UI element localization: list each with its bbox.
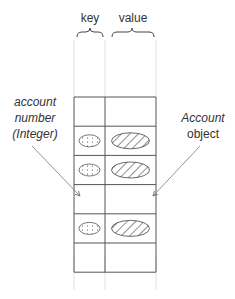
key-arrow <box>32 146 80 196</box>
value-entry-hatched-ellipse <box>112 220 150 236</box>
hash-table <box>74 97 156 272</box>
left-annotation-line-2: number <box>15 111 57 125</box>
value-entry-hatched-ellipse <box>112 133 150 149</box>
right-annotation-line-2: object <box>187 127 220 141</box>
key-entry-dotted-ellipse <box>79 222 100 234</box>
left-annotation-line-3: (Integer) <box>12 127 57 141</box>
value-arrow <box>153 146 200 196</box>
value-entry-hatched-ellipse <box>112 162 150 178</box>
value-label: value <box>119 11 148 25</box>
left-annotation-line-1: account <box>14 95 57 109</box>
key-label: key <box>81 11 100 25</box>
key-entry-dotted-ellipse <box>79 164 100 176</box>
right-annotation-line-1: Account <box>180 111 225 125</box>
hash-table-diagram: key value account number (Integer) Accou… <box>0 0 235 299</box>
value-brace <box>112 28 154 37</box>
key-brace <box>77 28 103 37</box>
key-entry-dotted-ellipse <box>79 135 100 147</box>
